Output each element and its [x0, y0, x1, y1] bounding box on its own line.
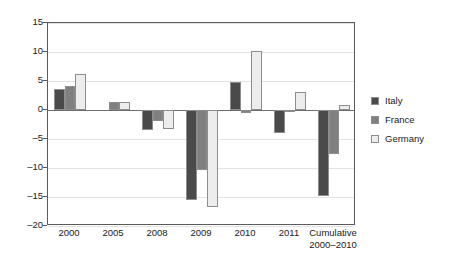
y-tick-mark-15 [43, 22, 47, 23]
x-tick-line: 2011 [279, 227, 299, 238]
y-tick-mark--20 [43, 225, 47, 226]
x-tick-line: 2008 [146, 227, 167, 238]
bar-france-2010 [241, 110, 252, 113]
legend-label: Italy [385, 96, 402, 106]
legend: ItalyFranceGermany [371, 91, 447, 148]
bar-germany-2008 [163, 110, 174, 129]
bar-germany-2005 [119, 102, 130, 110]
y-tick-label-15: 15 [32, 17, 43, 27]
legend-item-italy[interactable]: Italy [371, 91, 447, 110]
bar-france-2009 [197, 110, 208, 170]
y-tick-label--10: –10 [27, 162, 43, 172]
bar-france-cumulative [329, 110, 340, 154]
y-tick-mark-0 [43, 109, 47, 110]
bar-france-2005 [109, 102, 120, 110]
plot-area [47, 22, 355, 225]
x-tick-line: 2009 [190, 227, 211, 238]
bars-layer [48, 23, 354, 224]
x-tick-label-cumulative: Cumulative2000–2010 [303, 227, 363, 251]
y-tick-mark--5 [43, 138, 47, 139]
bar-italy-2009 [186, 110, 197, 200]
bar-germany-2009 [207, 110, 218, 207]
bar-germany-cumulative [339, 105, 350, 110]
legend-swatch-icon [371, 116, 379, 124]
y-tick-label-10: 10 [32, 46, 43, 56]
legend-swatch-icon [371, 135, 379, 143]
y-tick-label--5: –5 [32, 133, 43, 143]
bar-italy-cumulative [318, 110, 329, 196]
y-axis: 151050–5–10–15–20 [0, 0, 43, 268]
bar-chart-figure: 151050–5–10–15–20 2000200520082009201020… [0, 0, 449, 268]
bar-france-2008 [153, 110, 164, 121]
legend-item-france[interactable]: France [371, 110, 447, 129]
y-tick-mark-10 [43, 51, 47, 52]
bar-france-2000 [65, 86, 76, 110]
x-axis: 200020052008200920102011Cumulative2000–2… [47, 227, 355, 267]
y-tick-mark--10 [43, 167, 47, 168]
y-tick-mark--15 [43, 196, 47, 197]
x-tick-line: 2000 [58, 227, 79, 238]
legend-swatch-icon [371, 97, 379, 105]
x-tick-line: Cumulative [309, 227, 357, 238]
legend-label: Germany [385, 134, 424, 144]
bar-italy-2010 [230, 82, 241, 110]
y-tick-mark-5 [43, 80, 47, 81]
bar-italy-2008 [142, 110, 153, 130]
y-tick-label--15: –15 [27, 191, 43, 201]
bar-italy-2011 [274, 110, 285, 133]
bar-germany-2010 [251, 51, 262, 110]
bar-germany-2011 [295, 92, 306, 110]
bar-italy-2000 [54, 89, 65, 110]
bar-france-2011 [285, 110, 296, 112]
x-tick-line: 2005 [102, 227, 123, 238]
bar-germany-2000 [75, 74, 86, 110]
x-tick-line: 2010 [234, 227, 255, 238]
legend-label: France [385, 115, 415, 125]
x-tick-line: 2000–2010 [303, 239, 363, 251]
legend-item-germany[interactable]: Germany [371, 129, 447, 148]
